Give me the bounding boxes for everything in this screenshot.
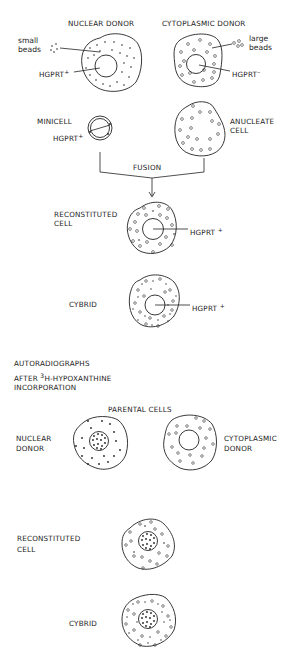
autorad-cytoplasmic-donor — [164, 415, 217, 470]
autorad-nuclear-donor-line2: DONOR — [16, 444, 44, 453]
reconstituted-cell-line1: RECONSTITUTED — [54, 210, 117, 219]
small-beads — [85, 41, 135, 87]
parental-cells-label: PARENTAL CELLS — [108, 405, 172, 414]
autorad-heading-line3: INCORPORATION — [14, 383, 76, 392]
autorad-heading-line2: AFTER 3H-HYPOXANTHINE — [14, 371, 112, 383]
cybrid-title: CYBRID — [69, 300, 97, 309]
cybrid-cell — [129, 275, 190, 327]
cytoplasmic-donor-title: CYTOPLASMIC DONOR — [162, 19, 246, 28]
small-beads-label-2: beads — [18, 45, 41, 54]
autorad-cytoplasmic-donor-line1: CYTOPLASMIC — [224, 434, 277, 443]
anucleate-cell-line2: CELL — [230, 126, 248, 135]
marker-sign: + — [220, 302, 225, 309]
reconstituted-cell-marker: HGPRT + — [190, 225, 223, 237]
diagram-canvas — [0, 0, 304, 659]
autorad-cybrid-label: CYBRID — [69, 619, 97, 628]
nucleus — [95, 55, 117, 77]
anucleate-cell-line1: ANUCLEATE — [230, 117, 274, 126]
reconstituted-cell-line2: CELL — [54, 219, 72, 228]
fusion-label: FUSION — [133, 163, 161, 172]
autorad-cytoplasmic-donor-line2: DONOR — [224, 444, 252, 453]
marker-sign: – — [257, 68, 260, 75]
autorad-cybrid — [122, 594, 176, 646]
large-beads-label-2: beads — [249, 43, 272, 52]
marker-sign: + — [218, 226, 223, 233]
reconstituted-cell — [127, 202, 188, 253]
marker-sign: + — [78, 132, 83, 139]
large-beads-sample — [233, 40, 244, 48]
small-beads-label-1: small — [18, 36, 38, 45]
large-beads — [179, 39, 217, 84]
cytoplasmic-donor-marker: HGPRT– — [232, 67, 260, 79]
autorad-reconstituted-cell — [122, 519, 174, 569]
minicell-title: MINICELL — [37, 117, 72, 126]
small-beads-sample — [50, 43, 58, 53]
autorad-reconstituted-line2: CELL — [17, 545, 35, 554]
nuclear-donor-marker: HGPRT+ — [39, 67, 69, 79]
anucleate-cell — [175, 102, 225, 156]
autorad-nuclear-donor-line1: NUCLEAR — [16, 434, 52, 443]
autorad-heading-line1: AUTORADIOGRAPHS — [14, 359, 90, 368]
autorad-nuclear-donor — [73, 417, 127, 470]
marker-sign: + — [64, 68, 69, 75]
minicell-marker: HGPRT+ — [53, 131, 83, 143]
nuclear-donor-title: NUCLEAR DONOR — [68, 19, 134, 28]
autorad-reconstituted-line1: RECONSTITUTED — [17, 534, 80, 543]
cybrid-marker: HGPRT + — [192, 301, 225, 313]
large-beads-label-1: large — [249, 34, 268, 43]
minicell — [88, 116, 112, 140]
fusion-connector — [100, 152, 204, 197]
nuclear-donor-cell — [50, 34, 141, 92]
